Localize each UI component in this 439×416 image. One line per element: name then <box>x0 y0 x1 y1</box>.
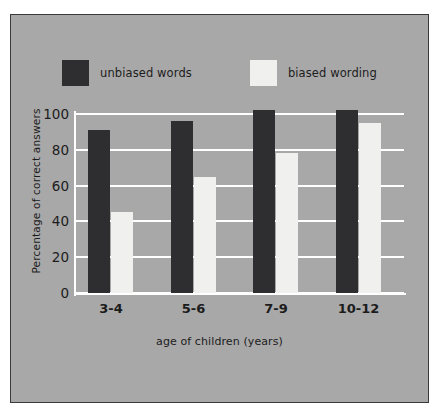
legend-swatch-icon-biased-wording <box>250 60 277 86</box>
x-axis-title: age of children (years) <box>11 335 428 348</box>
x-tick-label-7-9: 7-9 <box>264 301 288 316</box>
bar-5-6-biased <box>194 177 216 293</box>
bar-7-9-unbiased <box>253 110 275 293</box>
y-tick-label-60: 60 <box>52 178 69 194</box>
chart-figure: unbiased words biased wording Percentage… <box>10 14 429 403</box>
bar-10-12-biased <box>359 123 381 293</box>
bar-3-4-biased <box>111 212 133 293</box>
x-tick-label-3-4: 3-4 <box>99 301 123 316</box>
bar-group-10-12 <box>336 114 381 293</box>
legend-item-unbiased-words: unbiased words <box>62 60 192 86</box>
x-tick-label-10-12: 10-12 <box>338 301 380 316</box>
legend-swatch-icon-unbiased-words <box>62 60 89 86</box>
y-tick-label-40: 40 <box>52 213 69 229</box>
y-tick-label-80: 80 <box>52 142 69 158</box>
bar-3-4-unbiased <box>88 130 110 293</box>
legend-label-biased-wording: biased wording <box>288 66 377 80</box>
bar-10-12-unbiased <box>336 110 358 293</box>
legend-label-unbiased-words: unbiased words <box>100 66 192 80</box>
bar-group-5-6 <box>171 114 216 293</box>
bar-group-7-9 <box>253 114 298 293</box>
bar-7-9-biased <box>276 153 298 293</box>
y-tick-label-20: 20 <box>52 249 69 265</box>
x-tick-label-5-6: 5-6 <box>182 301 206 316</box>
bar-5-6-unbiased <box>171 121 193 293</box>
y-tick-label-100: 100 <box>43 106 69 122</box>
x-axis-tick-labels: 3-45-67-910-12 <box>74 301 406 323</box>
legend-item-biased-wording: biased wording <box>250 60 377 86</box>
y-axis-tick-labels: 020406080100 <box>21 114 69 293</box>
bar-group-3-4 <box>88 114 133 293</box>
plot-area <box>74 114 404 293</box>
chart-legend: unbiased words biased wording <box>11 60 428 86</box>
y-tick-label-0: 0 <box>60 285 69 301</box>
